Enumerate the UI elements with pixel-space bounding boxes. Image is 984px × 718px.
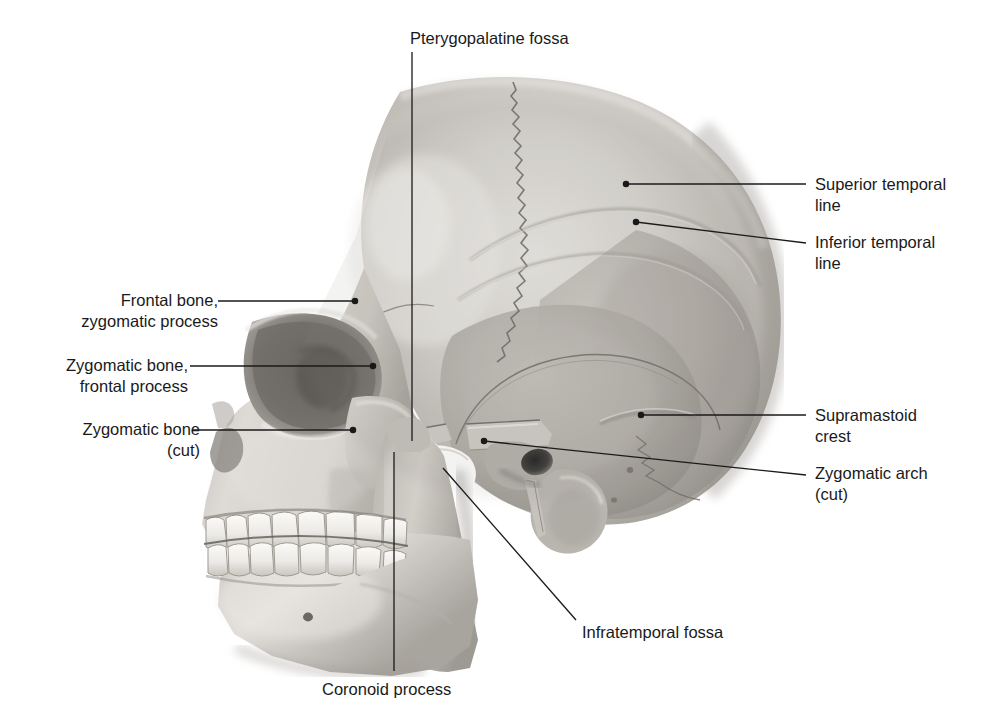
leader-dot-inferior-temporal-line xyxy=(633,219,638,224)
figure-page: Pterygopalatine fossaSuperior temporal l… xyxy=(0,0,984,718)
label-zygomatic-bone-cut: Zygomatic bone (cut) xyxy=(0,419,200,461)
leader-dot-zygomatic-bone-frontal-process xyxy=(370,363,375,368)
leader-dot-frontal-bone-zygomatic-process xyxy=(352,298,357,303)
leader-dot-superior-temporal-line xyxy=(623,181,628,186)
label-frontal-bone-zygomatic-process: Frontal bone, zygomatic process xyxy=(0,290,218,332)
leader-dot-zygomatic-arch-cut xyxy=(481,438,486,443)
leader-dot-zygomatic-bone-cut xyxy=(350,427,355,432)
label-pterygopalatine-fossa: Pterygopalatine fossa xyxy=(410,28,569,49)
mental-foramen xyxy=(303,613,313,622)
leader-dot-supramastoid-crest xyxy=(638,412,643,417)
label-superior-temporal-line: Superior temporal line xyxy=(815,174,946,216)
label-supramastoid-crest: Supramastoid crest xyxy=(815,405,917,447)
label-infratemporal-fossa: Infratemporal fossa xyxy=(582,622,723,643)
label-zygomatic-bone-frontal-process: Zygomatic bone, frontal process xyxy=(0,355,188,397)
label-inferior-temporal-line: Inferior temporal line xyxy=(815,232,935,274)
label-zygomatic-arch-cut: Zygomatic arch (cut) xyxy=(815,463,928,505)
label-coronoid-process: Coronoid process xyxy=(322,679,451,700)
